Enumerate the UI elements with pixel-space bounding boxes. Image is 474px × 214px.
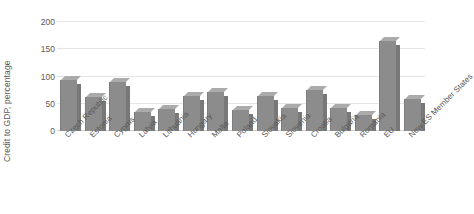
y-tick-label: 0 [25, 127, 55, 135]
bar-side-face [396, 45, 400, 131]
bar-top-face [110, 78, 130, 82]
bar-top-face [61, 76, 81, 80]
bar-top-face [331, 104, 351, 108]
bars-layer [57, 22, 425, 131]
x-axis-tick-labels: Czech RepublicEstoniaCyprusLatviaLithuan… [57, 133, 425, 214]
y-tick-label: 50 [25, 100, 55, 108]
bar-top-face [380, 37, 400, 41]
bar-top-face [208, 88, 228, 92]
bar-top-face [233, 106, 253, 110]
bar-top-face [405, 95, 425, 99]
y-tick-label: 200 [25, 18, 55, 26]
bar-top-face [135, 108, 155, 112]
y-tick-label: 150 [25, 45, 55, 53]
bar-top-face [307, 86, 327, 90]
plot-area [57, 22, 425, 131]
bar-top-face [282, 104, 302, 108]
bar-top-face [159, 105, 179, 109]
bar-top-face [258, 92, 278, 96]
y-tick-label: 100 [25, 73, 55, 81]
y-axis-title: Credit to GDP, percentage [2, 12, 16, 162]
bar-top-face [356, 111, 376, 115]
bar-top-face [184, 92, 204, 96]
